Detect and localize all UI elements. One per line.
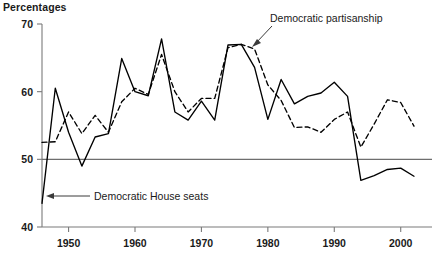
chart-container: Percentages 40506070 1950196019701980199… bbox=[0, 0, 435, 276]
annotation-partisanship-label: Democratic partisanship bbox=[270, 12, 383, 24]
x-tick-label: 1990 bbox=[323, 237, 347, 249]
annotation-house-arrowhead bbox=[46, 193, 54, 199]
x-tick-label: 2000 bbox=[389, 237, 413, 249]
x-tick-label: 1960 bbox=[123, 237, 147, 249]
y-tick-label: 40 bbox=[21, 221, 33, 233]
series-group bbox=[42, 39, 414, 203]
y-tick-label: 60 bbox=[21, 86, 33, 98]
y-tick-label: 70 bbox=[21, 18, 33, 30]
line-chart: 40506070 195019601970198019902000 Democr… bbox=[0, 0, 435, 276]
x-tick-label: 1970 bbox=[190, 237, 214, 249]
y-tick-label: 50 bbox=[21, 153, 33, 165]
x-tick-group: 195019601970198019902000 bbox=[57, 227, 413, 249]
annotation-house-group: Democratic House seats bbox=[46, 190, 208, 202]
annotation-partisanship-group: Democratic partisanship bbox=[252, 12, 383, 47]
annotation-house-label: Democratic House seats bbox=[94, 190, 208, 202]
annotation-partisanship-arrowhead bbox=[252, 39, 261, 47]
x-tick-label: 1950 bbox=[57, 237, 81, 249]
y-tick-group: 40506070 bbox=[21, 18, 42, 233]
series-line-democratic-house-seats bbox=[42, 39, 414, 203]
series-line-democratic-partisanship bbox=[42, 44, 414, 147]
x-tick-label: 1980 bbox=[256, 237, 280, 249]
